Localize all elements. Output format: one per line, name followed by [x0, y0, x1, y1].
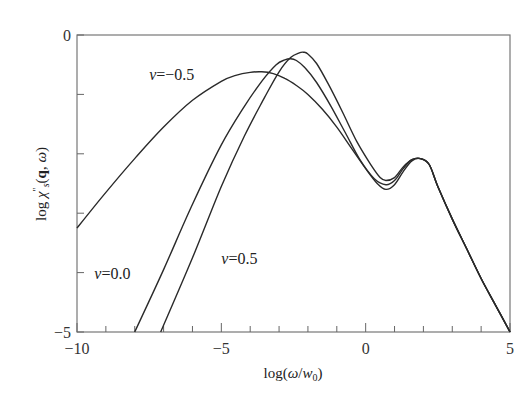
curve-labels: v=−0.5v=0.0v=0.5 — [94, 66, 257, 282]
y-tick-label: −5 — [54, 324, 71, 341]
curve-label-0: v=−0.5 — [149, 66, 194, 83]
curve-series-2 — [161, 52, 510, 332]
x-axis-title: log(ω/w0) — [264, 365, 323, 383]
x-tick-label: 5 — [506, 340, 514, 357]
plot-frame — [77, 35, 510, 332]
axis-ticks — [77, 35, 510, 332]
curve-label-1: v=0.0 — [94, 265, 130, 282]
data-curves — [77, 52, 510, 332]
x-tick-label: 0 — [362, 340, 370, 357]
curve-label-2: v=0.5 — [221, 250, 257, 267]
line-chart: −10−5050−5 v=−0.5v=0.0v=0.5 log(ω/w0) lo… — [0, 0, 531, 411]
x-tick-label: −5 — [213, 340, 230, 357]
axis-tick-labels: −10−5050−5 — [54, 27, 514, 357]
y-tick-label: 0 — [63, 27, 71, 44]
curve-series-1 — [135, 59, 510, 332]
y-axis-title: log χ″s(q, ω) — [31, 147, 51, 221]
x-tick-label: −10 — [64, 340, 89, 357]
